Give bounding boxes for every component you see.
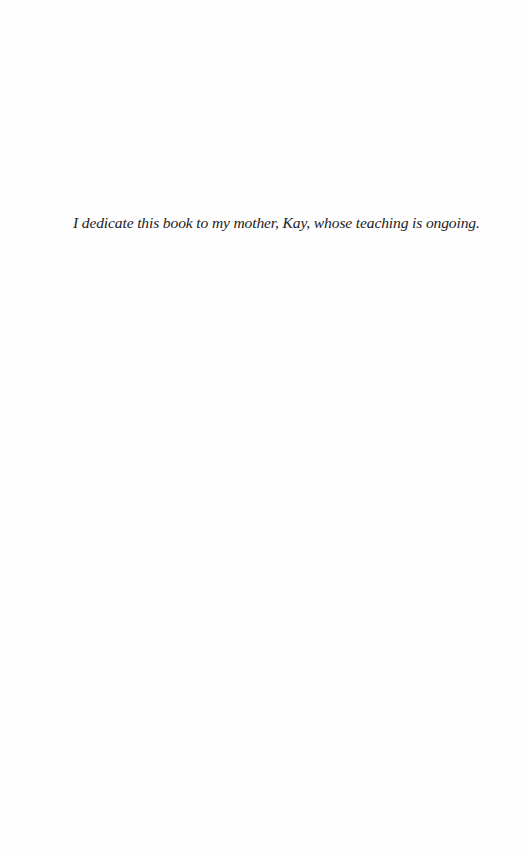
- dedication-text: I dedicate this book to my mother, Kay, …: [73, 213, 435, 233]
- book-page: I dedicate this book to my mother, Kay, …: [0, 0, 526, 858]
